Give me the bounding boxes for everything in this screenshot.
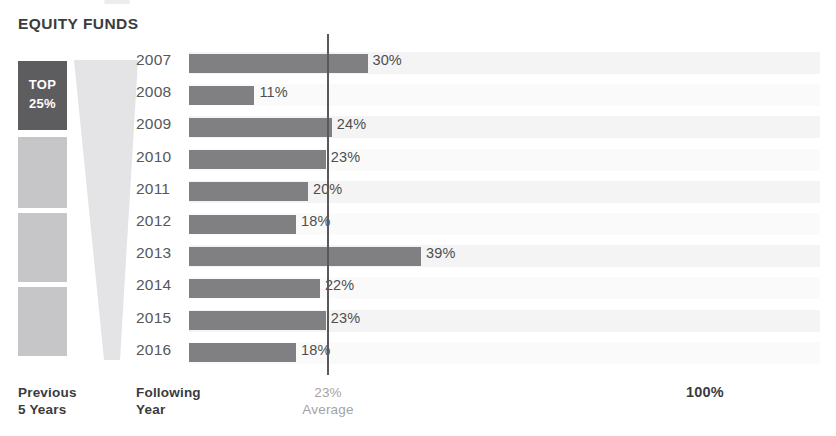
footer-average-value: 23% — [259, 384, 397, 401]
bar-value-label: 23% — [331, 310, 360, 326]
table-row: 201218% — [0, 209, 836, 241]
bar-value-label: 39% — [426, 245, 455, 261]
bar — [189, 247, 421, 266]
bar-value-label: 30% — [373, 52, 402, 68]
footer-average-label: 23% Average — [259, 384, 397, 418]
bar-value-label: 22% — [325, 277, 354, 293]
footer-previous-label: Previous 5 Years — [18, 384, 77, 418]
table-row: 200811% — [0, 80, 836, 112]
footer-following-line1: Following — [136, 384, 201, 401]
bar — [189, 279, 320, 298]
footer-average-word: Average — [259, 401, 397, 418]
average-line — [327, 34, 329, 375]
row-year-label: 2009 — [136, 115, 184, 133]
bar-value-label: 23% — [331, 149, 360, 165]
table-row: 200924% — [0, 112, 836, 144]
table-row: 200730% — [0, 48, 836, 80]
bar-value-label: 11% — [259, 84, 287, 100]
scan-artifact — [104, 0, 130, 4]
row-year-label: 2011 — [136, 180, 184, 198]
table-row: 201120% — [0, 177, 836, 209]
bar — [189, 343, 296, 362]
footer-following-line2: Year — [136, 401, 201, 418]
bar — [189, 215, 296, 234]
bar — [189, 311, 326, 330]
chart-title: EQUITY FUNDS — [18, 15, 139, 33]
footer-max-label: 100% — [686, 384, 806, 400]
row-year-label: 2014 — [136, 276, 184, 294]
bar-value-label: 24% — [337, 116, 366, 132]
row-year-label: 2008 — [136, 83, 184, 101]
table-row: 201523% — [0, 306, 836, 338]
table-row: 201618% — [0, 338, 836, 370]
bar-chart-plot: 200730%200811%200924%201023%201120%20121… — [0, 48, 836, 370]
row-year-label: 2007 — [136, 51, 184, 69]
row-year-label: 2016 — [136, 341, 184, 359]
row-year-label: 2012 — [136, 212, 184, 230]
footer-following-label: Following Year — [136, 384, 201, 418]
row-year-label: 2015 — [136, 309, 184, 327]
bar — [189, 118, 332, 137]
row-year-label: 2010 — [136, 148, 184, 166]
bar — [189, 54, 368, 73]
bar — [189, 182, 308, 201]
table-row: 201422% — [0, 273, 836, 305]
footer-previous-line2: 5 Years — [18, 401, 77, 418]
equity-funds-infographic: EQUITY FUNDS TOP 25% 200730%200811%20092… — [0, 0, 836, 436]
footer-previous-line1: Previous — [18, 384, 77, 401]
table-row: 201023% — [0, 145, 836, 177]
bar — [189, 150, 326, 169]
bar — [189, 86, 254, 105]
table-row: 201339% — [0, 241, 836, 273]
row-year-label: 2013 — [136, 244, 184, 262]
